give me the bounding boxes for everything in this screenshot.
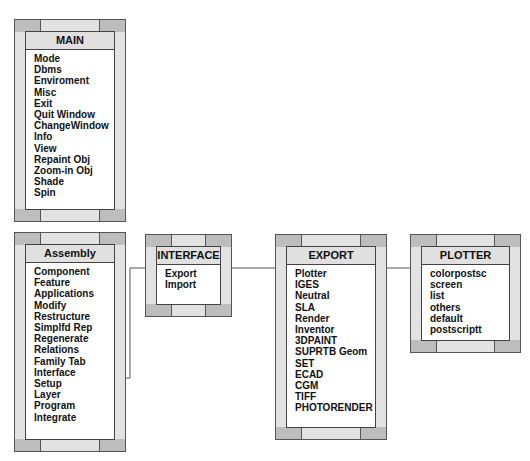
menu-item[interactable]: View xyxy=(34,143,114,154)
menu-title: EXPORT xyxy=(287,247,375,265)
menu-item[interactable]: Program xyxy=(34,400,114,411)
menu-item[interactable]: Layer xyxy=(34,389,114,400)
menu-item[interactable]: ECAD xyxy=(295,369,375,380)
menu-plotter: PLOTTER colorpostsc screen list others d… xyxy=(410,234,521,353)
menu-title: INTERFACE xyxy=(157,247,220,265)
menu-items: Component Feature Applications Modify Re… xyxy=(26,263,114,423)
menu-item[interactable]: Applications xyxy=(34,288,114,299)
menu-items: Plotter IGES Neutral SLA Render Inventor… xyxy=(287,265,375,414)
menu-item[interactable]: Zoom-in Obj xyxy=(34,165,114,176)
menu-title: MAIN xyxy=(26,32,114,50)
menu-item[interactable]: Exit xyxy=(34,98,114,109)
menu-item[interactable]: Neutral xyxy=(295,290,375,301)
menu-items: Mode Dbms Enviroment Misc Exit Quit Wind… xyxy=(26,50,114,199)
menu-item[interactable]: screen xyxy=(430,279,509,290)
menu-title: PLOTTER xyxy=(422,247,509,265)
menu-item[interactable]: ChangeWindow xyxy=(34,120,114,131)
menu-item[interactable]: TIFF xyxy=(295,391,375,402)
menu-item[interactable]: Spin xyxy=(34,187,114,198)
menu-items: Export Import xyxy=(157,265,220,290)
menu-item[interactable]: Inventor xyxy=(295,324,375,335)
menu-item[interactable]: Render xyxy=(295,313,375,324)
menu-item[interactable]: Setup xyxy=(34,378,114,389)
menu-item[interactable]: Family Tab xyxy=(34,356,114,367)
menu-item[interactable]: SET xyxy=(295,358,375,369)
menu-item[interactable]: Modify xyxy=(34,300,114,311)
menu-item[interactable]: Info xyxy=(34,131,114,142)
menu-item[interactable]: Regenerate xyxy=(34,333,114,344)
menu-main: MAIN Mode Dbms Enviroment Misc Exit Quit… xyxy=(14,19,126,222)
menu-item[interactable]: Feature xyxy=(34,277,114,288)
menu-item[interactable]: Export xyxy=(165,268,220,279)
menu-item[interactable]: Simplfd Rep xyxy=(34,322,114,333)
menu-assembly: Assembly Component Feature Applications … xyxy=(14,232,126,452)
menu-item[interactable]: CGM xyxy=(295,380,375,391)
menu-item[interactable]: colorpostsc xyxy=(430,268,509,279)
menu-item[interactable]: Import xyxy=(165,279,220,290)
menu-item[interactable]: Component xyxy=(34,266,114,277)
menu-item[interactable]: others xyxy=(430,302,509,313)
menu-item[interactable]: postscriptt xyxy=(430,324,509,335)
menu-item[interactable]: 3DPAINT xyxy=(295,335,375,346)
menu-item[interactable]: Mode xyxy=(34,53,114,64)
menu-item[interactable]: Quit Window xyxy=(34,109,114,120)
menu-item[interactable]: default xyxy=(430,313,509,324)
menu-item[interactable]: Repaint Obj xyxy=(34,154,114,165)
menu-item[interactable]: SLA xyxy=(295,302,375,313)
menu-item[interactable]: Relations xyxy=(34,344,114,355)
menu-item[interactable]: IGES xyxy=(295,279,375,290)
menu-item[interactable]: Restructure xyxy=(34,311,114,322)
menu-item[interactable]: SUPRTB Geom xyxy=(295,346,375,357)
menu-title: Assembly xyxy=(26,245,114,263)
menu-items: colorpostsc screen list others default p… xyxy=(422,265,509,335)
menu-item[interactable]: PHOTORENDER xyxy=(295,402,375,413)
menu-item[interactable]: list xyxy=(430,290,509,301)
menu-item[interactable]: Plotter xyxy=(295,268,375,279)
menu-item[interactable]: Shade xyxy=(34,176,114,187)
menu-item[interactable]: Misc xyxy=(34,87,114,98)
menu-export: EXPORT Plotter IGES Neutral SLA Render I… xyxy=(275,234,387,440)
menu-item[interactable]: Enviroment xyxy=(34,75,114,86)
menu-item[interactable]: Interface xyxy=(34,367,114,378)
menu-interface: INTERFACE Export Import xyxy=(145,234,232,317)
menu-item[interactable]: Integrate xyxy=(34,412,114,423)
menu-item[interactable]: Dbms xyxy=(34,64,114,75)
